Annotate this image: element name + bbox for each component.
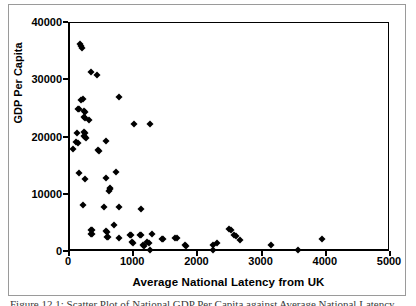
y-tick-mark [63, 193, 68, 195]
x-tick-mark [325, 251, 327, 256]
scatter-point [102, 137, 109, 144]
x-tick-label: 5000 [377, 256, 401, 267]
scatter-point [83, 134, 90, 141]
scatter-point [159, 236, 166, 243]
y-tick-label: 40000 [31, 17, 62, 28]
figure-root: 010000200003000040000 GDP Per Capita 010… [0, 0, 416, 306]
x-tick-label: 1000 [120, 256, 144, 267]
y-tick-mark [63, 78, 68, 80]
y-axis-title: GDP Per Capita [12, 3, 24, 163]
scatter-point [96, 147, 103, 154]
scatter-point [113, 168, 120, 175]
x-tick-mark [68, 251, 70, 256]
scatter-point [183, 242, 190, 249]
scatter-point [131, 121, 138, 128]
scatter-point [81, 176, 88, 183]
scatter-point [115, 93, 122, 100]
scatter-point [100, 203, 107, 210]
scatter-point [148, 231, 155, 238]
scatter-point [137, 206, 144, 213]
plot-area [68, 22, 389, 251]
scatter-point [86, 117, 93, 124]
scatter-points-layer [70, 23, 388, 249]
scatter-point [80, 202, 87, 209]
y-tick-mark [63, 21, 68, 23]
scatter-point [105, 188, 112, 195]
scatter-point [115, 234, 122, 241]
scatter-point [111, 222, 118, 229]
scatter-point [147, 121, 154, 128]
x-tick-mark [389, 251, 391, 256]
y-axis-tick-labels: 010000200003000040000 [0, 22, 62, 251]
y-tick-label: 0 [56, 246, 62, 257]
scatter-point [237, 236, 244, 243]
scatter-point [70, 145, 77, 152]
x-tick-mark [132, 251, 134, 256]
scatter-point [102, 174, 109, 181]
x-tick-mark [261, 251, 263, 256]
scatter-point [319, 236, 326, 243]
scatter-point [267, 242, 274, 249]
y-tick-label: 30000 [31, 74, 62, 85]
x-axis-title: Average National Latency from UK [68, 276, 389, 288]
x-axis-tick-labels: 010002000300040005000 [68, 256, 389, 272]
x-tick-label: 2000 [184, 256, 208, 267]
scatter-point [75, 169, 82, 176]
x-tick-label: 0 [65, 256, 71, 267]
y-tick-label: 20000 [31, 131, 62, 142]
scatter-point [93, 71, 100, 78]
x-tick-label: 4000 [313, 256, 337, 267]
y-tick-mark [63, 136, 68, 138]
scatter-point [116, 204, 123, 211]
x-tick-label: 3000 [248, 256, 272, 267]
y-tick-label: 10000 [31, 188, 62, 199]
figure-caption: Figure 12.1: Scatter Plot of National GD… [10, 298, 410, 306]
x-tick-mark [196, 251, 198, 256]
